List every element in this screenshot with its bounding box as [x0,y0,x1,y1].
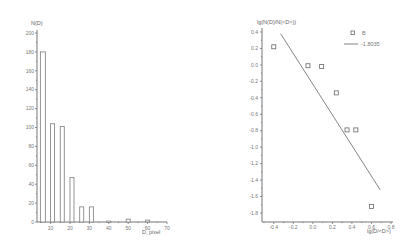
histogram-bar [107,221,111,223]
x-tick-label: 50 [125,225,131,231]
fit-line [281,34,381,190]
histogram-bar [126,219,130,222]
y-tick-label: -0.6 [249,111,258,117]
histogram-bar [80,207,84,222]
x-tick-label: -0.2 [289,224,298,230]
y-tick-label: 0.2 [251,45,258,51]
x-tick-label: 0.6 [368,224,375,230]
data-point-square-icon [345,128,349,132]
x-tick-label: 70 [164,225,170,231]
figure: N(D) D, pixel 02040608010012014016018020… [0,0,420,250]
y-tick-label: -1.8 [249,210,258,216]
x-tick-label: 10 [48,225,54,231]
x-tick-label: 30 [87,225,93,231]
y-tick-label: -0.2 [249,78,258,84]
histogram-bar [89,207,93,222]
y-tick-label: -1.4 [249,177,258,183]
y-tick-label: 100 [26,124,35,130]
histogram-bar [40,52,45,222]
x-tick-label: 0.2 [329,224,336,230]
y-tick-label: 120 [26,105,35,111]
data-point-square-icon [272,45,276,49]
x-tick-label: 20 [67,225,73,231]
x-tick-label: 0.0 [309,224,316,230]
y-tick-label: 80 [28,143,34,149]
x-tick-label: 0.4 [348,224,355,230]
data-point-square-icon [306,64,310,68]
legend-label-points: B [362,30,366,36]
data-points [272,45,374,209]
legend-label-fit: -1.8035 [361,41,380,47]
histogram-bar [70,178,74,222]
y-tick-label: 160 [26,68,35,74]
y-tick-label: 200 [26,30,35,36]
y-tick-label: 20 [28,200,34,206]
histogram-bar [51,124,55,222]
legend: B -1.8035 [344,30,380,47]
y-tick-label: 140 [26,86,35,92]
regression-line [281,34,381,190]
x-tick-label: -0.4 [269,224,278,230]
y-tick-label: 0.0 [251,62,258,68]
y-tick-label: -0.8 [249,127,258,133]
histogram-bar [60,127,64,222]
data-point-square-icon [369,204,373,208]
data-point-square-icon [334,91,338,95]
y-tick-label: -1.2 [249,160,258,166]
data-point-square-icon [320,65,324,69]
y-tick-label: -1.6 [249,193,258,199]
y-tick-label: 0.4 [251,29,258,35]
left-y-ticks: 020406080100120140160180200 [26,30,37,225]
legend-marker-square-icon [351,31,355,35]
y-tick-label: -0.4 [249,95,258,101]
right-y-ticks: 0.40.20.0-0.2-0.4-0.6-0.8-1.0-1.2-1.4-1.… [249,29,262,216]
y-tick-label: 180 [26,49,35,55]
x-tick-label: 60 [145,225,151,231]
y-tick-label: 40 [28,181,34,187]
left-y-axis-title: N(D) [31,20,43,26]
right-y-axis-title: lg(N(D)/N(<D>)) [257,19,296,25]
y-tick-label: 60 [28,162,34,168]
scatter-fit-chart: lg(N(D)/N(<D>)) lg(D/<D>) 0.40.20.0-0.2-… [249,19,394,234]
y-tick-label: 0 [31,219,34,225]
histogram-bars [40,52,149,223]
data-point-square-icon [354,128,358,132]
y-tick-label: -1.0 [249,144,258,150]
histogram-bar [146,220,150,222]
x-tick-label: 0.8 [388,224,395,230]
x-tick-label: 40 [106,225,112,231]
histogram-chart: N(D) D, pixel 02040608010012014016018020… [26,20,170,235]
